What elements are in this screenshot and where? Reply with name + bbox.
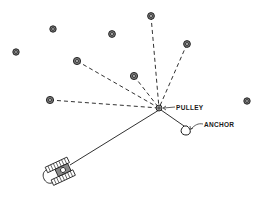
anchor-label: ANCHOR bbox=[204, 121, 234, 128]
anchor-icon bbox=[181, 126, 190, 135]
dashed-cables bbox=[50, 16, 187, 108]
stump-icon bbox=[109, 31, 116, 38]
stump-icon bbox=[130, 72, 137, 79]
solid-cables bbox=[70, 110, 184, 165]
cable-line bbox=[159, 44, 187, 108]
tractor-cable bbox=[70, 110, 159, 165]
pulley-pointer bbox=[164, 107, 175, 108]
stump-icon bbox=[13, 49, 19, 55]
stump-icon bbox=[50, 26, 56, 32]
stump-icon bbox=[148, 13, 155, 20]
pulley-icon bbox=[156, 105, 162, 111]
stump-pulling-diagram: PULLEY ANCHOR bbox=[0, 0, 263, 197]
cable-line bbox=[151, 16, 159, 108]
stumps bbox=[13, 13, 250, 105]
anchor-cable bbox=[161, 110, 184, 126]
cable-line bbox=[77, 61, 159, 108]
stump-icon bbox=[73, 57, 80, 64]
cable-line bbox=[134, 76, 159, 108]
stump-icon bbox=[244, 98, 250, 104]
stump-icon bbox=[184, 41, 191, 48]
pulley-label: PULLEY bbox=[176, 104, 204, 111]
cable-line bbox=[50, 100, 159, 108]
tractor-icon bbox=[40, 157, 76, 188]
stump-icon bbox=[46, 96, 53, 103]
